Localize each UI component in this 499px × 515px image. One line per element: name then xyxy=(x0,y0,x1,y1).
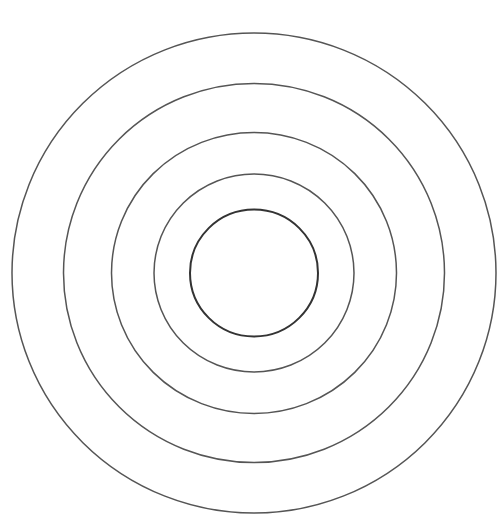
background xyxy=(0,0,499,515)
concentric-circles-diagram xyxy=(0,0,499,515)
